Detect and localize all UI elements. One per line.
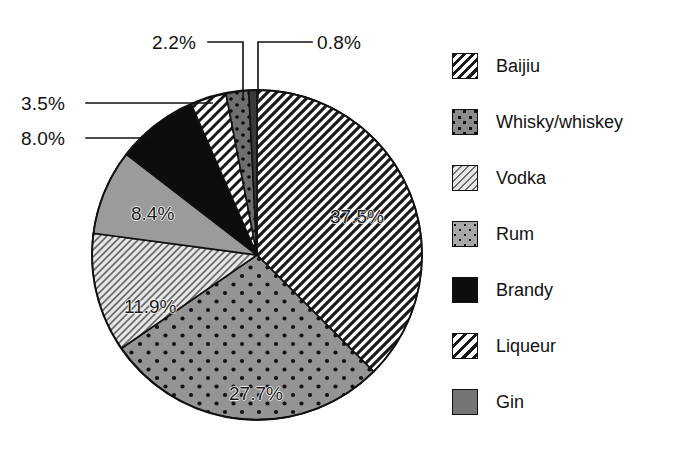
legend-label-liqueur: Liqueur [496,337,556,355]
callout-label-brandy: 8.0% [21,129,65,148]
legend-swatch-gin [452,389,478,415]
slice-value-rum: 8.4% [131,204,174,223]
legend-label-whisky: Whisky/whiskey [496,113,623,131]
legend-label-rum: Rum [496,225,534,243]
legend-label-vodka: Vodka [496,169,546,187]
legend-swatch-liqueur [452,333,478,359]
legend-item-whisky[interactable]: Whisky/whiskey [452,94,667,150]
legend-item-gin[interactable]: Gin [452,374,667,430]
legend-swatch-vodka [452,165,478,191]
slice-value-whisky: 27.7% [229,384,283,403]
legend-item-baijiu[interactable]: Baijiu [452,38,667,94]
legend-label-baijiu: Baijiu [496,57,540,75]
slice-value-vodka: 11.9% [124,297,176,316]
callout-label-other: 0.8% [317,33,361,52]
pie-slices [92,90,422,420]
legend-label-gin: Gin [496,393,524,411]
legend-swatch-brandy [452,277,478,303]
legend-label-brandy: Brandy [496,281,553,299]
slice-value-baijiu: 37.5% [330,207,384,226]
chart-canvas: 2.2% 0.8% 3.5% 8.0% 37.5% 27.7% 11.9% 8.… [0,0,676,461]
legend-swatch-baijiu [452,53,478,79]
legend-item-brandy[interactable]: Brandy [452,262,667,318]
legend: Baijiu Whisky/whiskey Vodka Rum Brandy L… [452,38,667,430]
legend-item-liqueur[interactable]: Liqueur [452,318,667,374]
legend-item-vodka[interactable]: Vodka [452,150,667,206]
legend-item-rum[interactable]: Rum [452,206,667,262]
callout-label-gin: 2.2% [152,33,196,52]
callout-label-liqueur: 3.5% [21,94,65,113]
legend-swatch-whisky [452,109,478,135]
legend-swatch-rum [452,221,478,247]
